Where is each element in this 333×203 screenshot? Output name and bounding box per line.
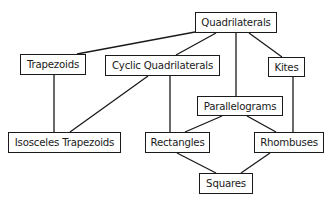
edge-parallelograms-to-rectangles [185,116,222,132]
edge-cyclic-to-isosceles [70,76,148,132]
edge-quadrilaterals-to-trapezoids [77,32,195,54]
node-quadrilaterals: Quadrilaterals [195,12,277,33]
node-parallelograms: Parallelograms [197,96,283,116]
diagram-edges [0,0,333,203]
node-label: Trapezoids [27,59,79,70]
node-label: Cyclic Quadrilaterals [112,60,213,71]
node-label: Parallelograms [204,101,277,112]
edge-rectangles-to-squares [177,153,216,173]
node-label: Rhombuses [260,137,318,148]
node-label: Rectangles [150,137,204,148]
node-rectangles: Rectangles [145,132,210,153]
node-trapezoids: Trapezoids [20,54,86,75]
node-label: Squares [206,178,246,189]
edge-rhombuses-to-squares [241,153,270,173]
node-rhombuses: Rhombuses [254,132,324,153]
node-kites: Kites [268,57,305,77]
node-label: Kites [274,62,298,73]
node-cyclic-quadrilaterals: Cyclic Quadrilaterals [105,55,220,76]
edge-parallelograms-to-rhombuses [247,116,276,132]
edge-quadrilaterals-to-cyclic [176,33,216,55]
node-label: Quadrilaterals [201,17,270,28]
node-label: Isosceles Trapezoids [15,137,114,148]
node-isosceles-trapezoids: Isosceles Trapezoids [8,132,121,153]
edge-quadrilaterals-to-kites [249,33,282,57]
node-squares: Squares [199,173,253,194]
quadrilateral-hierarchy-diagram: Quadrilaterals Trapezoids Cyclic Quadril… [0,0,333,203]
